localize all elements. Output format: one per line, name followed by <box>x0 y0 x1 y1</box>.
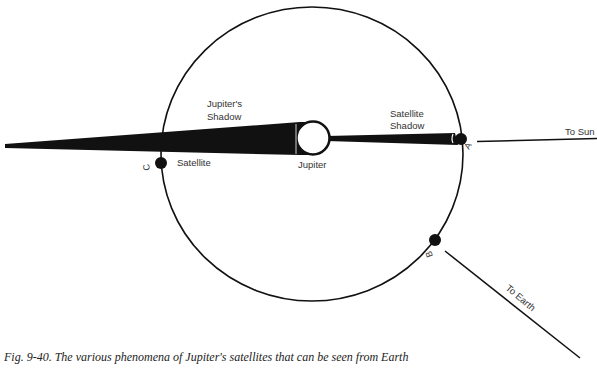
point-c-label: C <box>141 163 152 172</box>
diagram-canvas: Jupiter's Shadow Satellite Shadow Jupite… <box>0 0 597 369</box>
to-earth-label: To Earth <box>504 282 538 313</box>
satellite-shadow-label-line2: Shadow <box>390 120 424 131</box>
jupiters-shadow-label-line1: Jupiter's <box>207 98 242 109</box>
satellite-shadow <box>326 133 458 145</box>
jupiter-label: Jupiter <box>298 159 327 170</box>
to-sun-label: To Sun <box>565 126 595 137</box>
satellite-label: Satellite <box>177 157 211 168</box>
satellite-shadow-label-line1: Satellite <box>390 108 424 119</box>
jupiters-shadow <box>5 122 313 155</box>
jupiter-disk <box>297 122 330 155</box>
point-a-label: A <box>462 141 474 151</box>
to-earth-line <box>445 251 580 358</box>
satellite-c <box>155 157 167 169</box>
figure-caption: Fig. 9-40. The various phenomena of Jupi… <box>4 350 408 365</box>
to-sun-line <box>477 139 597 142</box>
satellite-b <box>429 234 441 246</box>
jupiters-shadow-label-line2: Shadow <box>207 111 241 122</box>
